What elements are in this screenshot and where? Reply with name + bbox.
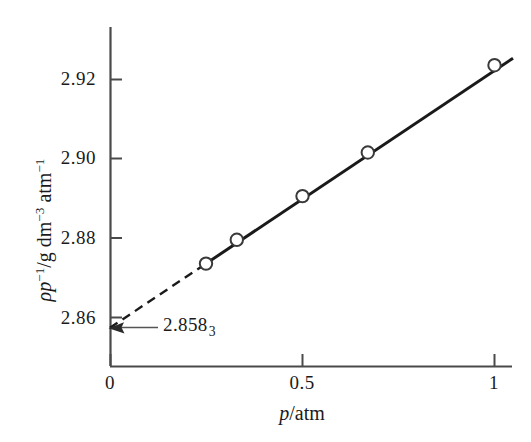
y-tick-label-2.92: 2.92 bbox=[0, 68, 96, 90]
best-fit-line bbox=[202, 58, 513, 266]
y-axis-symbol-p: p bbox=[33, 282, 55, 292]
y-axis-symbol-rho: ρ bbox=[33, 292, 55, 302]
chart-figure: 2.92 2.90 2.88 2.86 0 0.5 1 2.8583 p/atm… bbox=[0, 0, 531, 442]
x-tick-label-1: 1 bbox=[489, 372, 499, 394]
y-axis-exp-p: −1 bbox=[32, 268, 47, 282]
y-tick-label-2.86: 2.86 bbox=[0, 307, 96, 329]
x-axis-unit: /atm bbox=[289, 402, 325, 424]
x-axis-title: p/atm bbox=[279, 402, 325, 425]
y-axis-ticks bbox=[110, 80, 122, 318]
intercept-value-subdigit: 3 bbox=[209, 324, 216, 339]
intercept-value-main: 2.858 bbox=[163, 314, 208, 335]
x-axis-ticks bbox=[111, 354, 495, 366]
data-point-4 bbox=[362, 146, 374, 158]
data-point-2 bbox=[231, 234, 243, 246]
y-axis-unit-atm: atm bbox=[33, 173, 55, 208]
x-axis-symbol: p bbox=[279, 402, 289, 424]
y-axis-exp-dm: −3 bbox=[32, 208, 47, 222]
plot-canvas bbox=[0, 0, 531, 442]
x-tick-label-0: 0 bbox=[105, 372, 115, 394]
data-point-1 bbox=[200, 257, 212, 269]
data-point-3 bbox=[296, 190, 308, 202]
y-axis-title: ρp−1/g dm−3 atm−1 bbox=[32, 159, 57, 302]
y-axis-unit-g: /g dm bbox=[33, 222, 55, 268]
y-axis-exp-atm: −1 bbox=[32, 159, 47, 173]
x-tick-label-0.5: 0.5 bbox=[289, 372, 314, 394]
intercept-annotation: 2.8583 bbox=[163, 314, 216, 340]
data-point-5 bbox=[488, 59, 500, 71]
